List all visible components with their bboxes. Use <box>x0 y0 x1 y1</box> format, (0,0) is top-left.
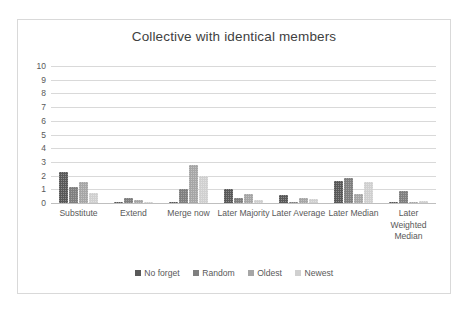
bar <box>364 182 373 203</box>
y-tick-label: 3 <box>41 157 46 167</box>
y-tick-label: 0 <box>41 198 46 208</box>
bar <box>179 189 188 203</box>
y-tick-label: 2 <box>41 171 46 181</box>
bar-group <box>271 66 326 203</box>
bar-group <box>106 66 161 203</box>
y-tick-label: 8 <box>41 88 46 98</box>
y-tick-label: 5 <box>41 130 46 140</box>
bar <box>279 195 288 203</box>
legend-swatch-icon <box>295 270 301 276</box>
x-axis-label: Merge now <box>161 208 216 220</box>
bar <box>124 198 133 203</box>
legend-swatch-icon <box>135 270 141 276</box>
bar <box>354 194 363 203</box>
bar <box>309 199 318 203</box>
chart-frame: Collective with identical members 109876… <box>17 19 451 294</box>
legend-item[interactable]: No forget <box>135 268 180 278</box>
legend-label: Random <box>202 268 234 278</box>
bar-group <box>51 66 106 203</box>
legend-item[interactable]: Oldest <box>248 268 282 278</box>
y-tick-label: 7 <box>41 102 46 112</box>
bar <box>289 202 298 203</box>
x-axis-label: Later Average <box>271 208 326 220</box>
y-tick-label: 10 <box>37 61 46 71</box>
legend-swatch-icon <box>248 270 254 276</box>
bar <box>169 202 178 203</box>
bar <box>89 193 98 203</box>
y-tick-label: 6 <box>41 116 46 126</box>
x-axis-category-labels: SubstituteExtendMerge nowLater MajorityL… <box>51 208 436 264</box>
plot-area: 109876543210 <box>51 66 436 203</box>
bar <box>299 198 308 203</box>
bar <box>59 172 68 204</box>
chart-legend: No forgetRandomOldestNewest <box>18 268 450 278</box>
bar-group <box>381 66 436 203</box>
x-axis-label: Later Weighted Median <box>381 208 436 243</box>
bar <box>399 191 408 203</box>
bar <box>254 200 263 203</box>
bar <box>79 182 88 203</box>
bar <box>244 194 253 203</box>
bar <box>69 187 78 203</box>
bar-group <box>326 66 381 203</box>
legend-label: Oldest <box>257 268 282 278</box>
x-axis-label: Later Majority <box>216 208 271 220</box>
legend-label: Newest <box>305 268 334 278</box>
bar <box>409 202 418 203</box>
x-axis-label: Substitute <box>51 208 106 220</box>
bar <box>334 181 343 203</box>
bar <box>344 178 353 203</box>
bar <box>134 200 143 203</box>
y-tick-label: 1 <box>41 184 46 194</box>
bar <box>189 165 198 203</box>
legend-swatch-icon <box>193 270 199 276</box>
bar-group <box>216 66 271 203</box>
bar <box>199 176 208 203</box>
bar <box>234 198 243 203</box>
x-axis-label: Later Median <box>326 208 381 220</box>
bar <box>419 201 428 203</box>
x-axis-label: Extend <box>106 208 161 220</box>
bar-group <box>161 66 216 203</box>
bar <box>389 202 398 203</box>
gridline-0 <box>51 203 436 204</box>
y-tick-label: 9 <box>41 75 46 85</box>
y-tick-label: 4 <box>41 143 46 153</box>
bar <box>144 202 153 203</box>
legend-label: No forget <box>144 268 179 278</box>
legend-item[interactable]: Random <box>193 268 235 278</box>
legend-item[interactable]: Newest <box>295 268 333 278</box>
bar <box>224 189 233 203</box>
bars-layer <box>51 66 436 203</box>
bar <box>114 202 123 203</box>
chart-title: Collective with identical members <box>18 29 450 44</box>
